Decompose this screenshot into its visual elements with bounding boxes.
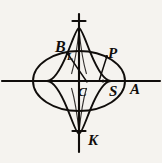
point-label-k: K [88,133,98,148]
point-label-s: S [109,84,117,99]
point-label-a: A [130,82,140,97]
point-label-b: B [55,39,66,55]
point-label-p: P [108,46,117,61]
geometric-figure: B L P A S C K [0,0,162,163]
point-label-l: L [67,52,73,62]
point-label-c: C [78,85,87,98]
point-marker-s [101,79,104,82]
